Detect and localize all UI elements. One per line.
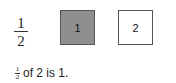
fraction-one-half: 1 2	[14, 16, 28, 48]
box-label: 1	[74, 22, 80, 34]
box-label: 2	[132, 22, 138, 34]
caption-fraction-denominator: 2	[16, 74, 20, 80]
shaded-box-1: 1	[60, 10, 95, 45]
caption: 1 2 of 2 is 1.	[15, 66, 68, 80]
fraction-numerator: 1	[14, 16, 28, 30]
caption-fraction-numerator: 1	[16, 66, 20, 72]
fraction-bar	[14, 31, 28, 32]
caption-fraction: 1 2	[15, 66, 20, 80]
fraction-denominator: 2	[14, 34, 28, 48]
caption-text: of 2 is 1.	[23, 66, 68, 80]
unshaded-box-2: 2	[118, 10, 153, 45]
